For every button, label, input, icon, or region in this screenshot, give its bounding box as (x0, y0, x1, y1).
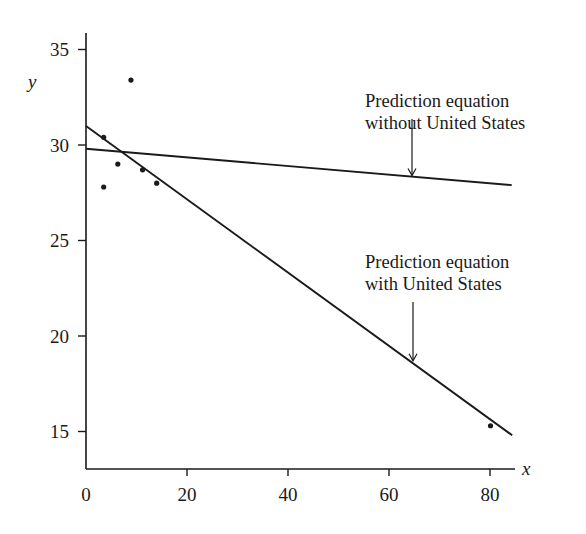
x-tick-label: 40 (279, 484, 298, 505)
scatter-plot: 1520253035 020406080 y x Prediction equa… (0, 0, 586, 534)
y-ticks: 1520253035 (50, 39, 86, 442)
data-point (101, 135, 106, 140)
y-axis-label: y (26, 71, 37, 92)
y-tick-label: 15 (50, 421, 69, 442)
annotation-text: Prediction equation (365, 91, 509, 111)
annotation-without-united-states: Prediction equationwithout United States (365, 91, 525, 175)
y-tick-label: 20 (50, 326, 69, 347)
data-point (154, 181, 159, 186)
x-tick-label: 0 (81, 484, 91, 505)
data-point (101, 184, 106, 189)
data-point (128, 77, 133, 82)
annotation-text: with United States (365, 274, 502, 294)
x-axis-label: x (521, 458, 531, 479)
data-point (488, 423, 493, 428)
x-tick-label: 60 (380, 484, 399, 505)
annotation-text: Prediction equation (365, 252, 509, 272)
x-tick-label: 20 (178, 484, 197, 505)
y-tick-label: 30 (50, 135, 69, 156)
annotation-text: without United States (365, 113, 525, 133)
x-tick-label: 80 (481, 484, 500, 505)
x-ticks: 020406080 (81, 469, 499, 505)
data-point (140, 167, 145, 172)
annotations: Prediction equationwithout United States… (365, 91, 525, 361)
line-without-united-states (86, 149, 512, 185)
data-point (115, 162, 120, 167)
y-tick-label: 35 (50, 39, 69, 60)
y-tick-label: 25 (50, 230, 69, 251)
